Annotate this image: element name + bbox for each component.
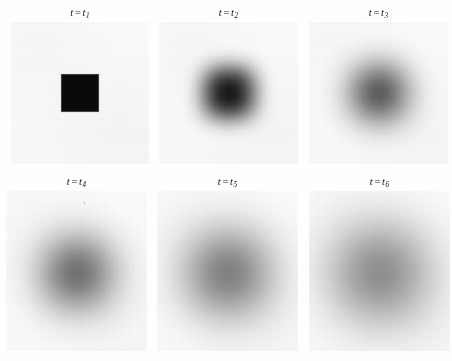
density-blob-t1 (62, 75, 99, 112)
panel-label-t6-subscript: 6 (385, 181, 389, 189)
panel-label-t4-subscript: 4 (82, 181, 86, 189)
panel-label-t2-subscript: 2 (234, 12, 238, 20)
panel-label-t3: t=t3 (309, 6, 448, 23)
panel-label-t3-equals: = (372, 7, 381, 18)
panel-label-t6: t=t6 (309, 175, 450, 192)
panel-image-t5 (157, 191, 298, 351)
scan-speck-t4 (84, 202, 86, 204)
density-blob-t4 (46, 242, 108, 304)
panel-image-t3 (309, 22, 448, 164)
density-blob-t6 (342, 235, 418, 311)
panel-label-t6-equals: = (373, 176, 382, 187)
panel-label-t3-subscript: 3 (384, 12, 388, 20)
panel-cell-t3: t=t3 (309, 6, 448, 164)
panel-label-t4-equals: = (70, 176, 79, 187)
panel-label-t5-subscript: 5 (233, 181, 237, 189)
panel-label-t4: t=t4 (6, 175, 147, 192)
density-blob-t3 (353, 67, 405, 119)
panel-cell-t6: t=t6 (309, 175, 450, 351)
panel-label-t5: t=t5 (157, 175, 298, 192)
panel-cell-t4: t=t4 (6, 175, 147, 351)
panel-label-t1: t=t1 (11, 6, 149, 23)
panel-cell-t2: t=t2 (159, 6, 298, 164)
panel-label-t2: t=t2 (159, 6, 298, 23)
panel-image-t2 (159, 22, 298, 164)
panel-cell-t5: t=t5 (157, 175, 298, 351)
panel-image-t4 (6, 191, 147, 351)
density-blob-t2 (205, 69, 253, 117)
panel-label-t1-equals: = (73, 7, 82, 18)
panel-cell-t1: t=t1 (11, 6, 149, 164)
density-blob-t5 (193, 238, 263, 308)
diffusion-time-series-figure: t=t1 t=t2 t=t3 t=t4 (0, 0, 452, 361)
panel-label-t5-equals: = (221, 176, 230, 187)
panel-image-t6 (309, 191, 450, 351)
panel-image-t1 (11, 22, 149, 164)
panel-label-t2-equals: = (222, 7, 231, 18)
panel-label-t1-subscript: 1 (86, 12, 90, 20)
